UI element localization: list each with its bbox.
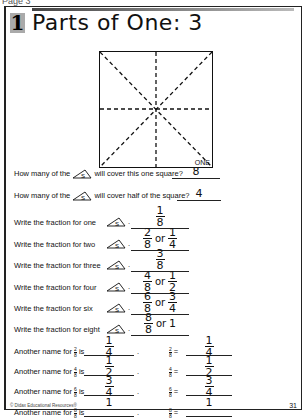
equation-label: 88 =	[169, 408, 178, 418]
fraction-row: Write the fraction for three	[14, 261, 101, 270]
page-title: Parts of One: 3	[32, 10, 203, 35]
triangle-piece-icon: S	[106, 217, 126, 227]
answer-field[interactable]: 4	[177, 187, 221, 201]
another-name-answer[interactable]: 1	[84, 396, 134, 417]
piece-icon-wrap: S .	[106, 324, 130, 334]
svg-text:S: S	[81, 195, 85, 201]
dashed-lines-icon	[100, 52, 212, 167]
equation-answer[interactable]: 1	[186, 396, 232, 417]
fraction-answer-field[interactable]: 18	[131, 205, 189, 229]
fraction-row: Write the fraction for eight	[14, 325, 100, 334]
fraction-row: Write the fraction for six	[14, 304, 93, 313]
piece-icon-wrap: S .	[106, 260, 130, 270]
svg-text:S: S	[115, 307, 119, 313]
copyright-footer: © Didax Educational Resources®	[10, 403, 77, 408]
fraction-row: Write the fraction for two	[14, 240, 95, 249]
question-row: How many of the S will cover half of the…	[14, 191, 190, 201]
svg-text:S: S	[115, 264, 119, 270]
another-name-answer[interactable]: 34	[84, 375, 134, 396]
fraction-row: Write the fraction for one	[14, 218, 96, 227]
fraction-answer-field[interactable]: 38	[131, 248, 189, 272]
svg-text:S: S	[115, 221, 119, 227]
triangle-piece-icon: S	[106, 324, 126, 334]
triangle-piece-icon: S	[106, 303, 126, 313]
worksheet-frame: 1 Parts of One: 3 ONE How many of the S …	[4, 6, 302, 410]
triangle-piece-icon: S	[106, 239, 126, 249]
equation-label: 68 =	[169, 387, 178, 398]
triangle-piece-icon: S	[106, 282, 126, 292]
another-name-row: Another name for 48 is	[14, 367, 84, 378]
another-name-row: Another name for 88 is	[14, 408, 84, 418]
equation-label: 28 =	[169, 347, 178, 358]
triangle-piece-icon: S	[72, 191, 92, 201]
another-name-row: Another name for 28 is	[14, 347, 84, 358]
fraction-row: Write the fraction for four	[14, 283, 96, 292]
piece-icon-wrap: S .	[106, 303, 130, 313]
triangle-piece-icon: S	[106, 260, 126, 270]
question-row: How many of the S will cover this one sq…	[14, 169, 183, 179]
page-number: 31	[289, 402, 297, 409]
piece-icon-wrap: S .	[106, 239, 130, 249]
equation-answer[interactable]: 14	[186, 335, 232, 356]
another-name-answer[interactable]: 12	[84, 355, 134, 376]
svg-text:S: S	[81, 173, 85, 179]
svg-text:S: S	[115, 328, 119, 334]
triangle-piece-icon: S	[72, 169, 92, 179]
fraction-answer-field[interactable]: 88or1	[131, 312, 189, 336]
piece-icon-wrap: S .	[106, 282, 130, 292]
answer-field[interactable]: 8	[172, 165, 220, 179]
piece-icon-wrap: S .	[106, 217, 130, 227]
svg-text:S: S	[115, 243, 119, 249]
another-name-row: Another name for 68 is	[14, 387, 84, 398]
square-diagram: ONE	[99, 51, 213, 168]
lesson-number: 1	[10, 13, 25, 33]
equation-answer[interactable]: 12	[186, 355, 232, 376]
equation-label: 48 =	[169, 367, 178, 378]
another-name-answer[interactable]: 14	[84, 335, 134, 356]
equation-answer[interactable]: 34	[186, 375, 232, 396]
svg-text:S: S	[115, 286, 119, 292]
